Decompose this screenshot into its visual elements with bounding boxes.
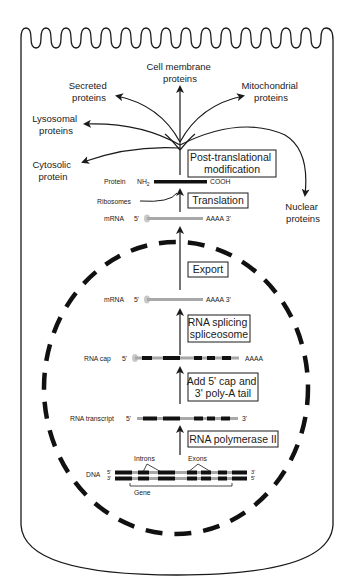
label-secreted-proteins: Secreted proteins bbox=[69, 80, 110, 103]
svg-text:RNA polymerase II: RNA polymerase II bbox=[189, 433, 277, 445]
label-nuclear-proteins: Nuclear proteins bbox=[285, 201, 320, 224]
label-mitochondrial-proteins: Mitochondrial proteins bbox=[241, 80, 300, 103]
svg-text:Exons: Exons bbox=[188, 455, 207, 462]
svg-text:3': 3' bbox=[107, 475, 111, 481]
mrna-nuclear: mRNA 5' AAAA 3' bbox=[104, 296, 231, 304]
svg-text:COOH: COOH bbox=[210, 178, 230, 185]
gene-expression-diagram: Cell membrane proteins Secreted proteins… bbox=[0, 0, 349, 587]
step-rna-splicing: RNA splicing spliceosome bbox=[180, 310, 250, 355]
label-cytosolic-protein: Cytosolic protein bbox=[32, 159, 73, 182]
svg-text:5': 5' bbox=[251, 475, 255, 481]
rna-capped: RNA cap 5' AAAA bbox=[84, 354, 264, 363]
svg-text:AAAA: AAAA bbox=[245, 355, 264, 362]
svg-text:5': 5' bbox=[122, 355, 127, 362]
step-translation: Ribosomes Translation bbox=[97, 190, 248, 212]
step-post-translational-modification: Post-translational modification bbox=[188, 150, 276, 177]
svg-text:Export: Export bbox=[193, 263, 223, 275]
svg-text:Introns: Introns bbox=[134, 455, 155, 462]
svg-text:RNA cap: RNA cap bbox=[84, 355, 111, 363]
svg-text:Protein: Protein bbox=[104, 178, 126, 185]
svg-text:mRNA: mRNA bbox=[104, 296, 124, 303]
nucleus-envelope bbox=[44, 242, 308, 534]
svg-text:AAAA 3': AAAA 3' bbox=[206, 215, 231, 222]
svg-text:3': 3' bbox=[242, 415, 247, 422]
dna-double-strand: Introns Exons DNA 5' 3' 3' 5' Gene bbox=[86, 455, 255, 496]
step-export: Export bbox=[180, 228, 228, 290]
svg-text:RNA splicing spliceosome: RNA splicing spliceosome bbox=[188, 316, 250, 340]
svg-text:DNA: DNA bbox=[86, 471, 101, 478]
svg-text:Gene: Gene bbox=[134, 489, 151, 496]
mrna-cytoplasmic: mRNA 5' AAAA 3' bbox=[104, 215, 231, 223]
svg-text:5': 5' bbox=[134, 296, 139, 303]
svg-text:Add 5' cap and 3' poly-A: Add 5' cap and 3' poly-A tail bbox=[187, 375, 260, 399]
svg-text:Translation: Translation bbox=[192, 194, 244, 206]
svg-text:NH2: NH2 bbox=[137, 178, 150, 187]
step-add-cap-and-tail: Add 5' cap and 3' poly-A tail bbox=[180, 368, 259, 404]
label-lysosomal-proteins: Lysosomal proteins bbox=[32, 113, 80, 136]
step-rna-polymerase-ii: RNA polymerase II bbox=[180, 427, 278, 455]
svg-text:Ribosomes: Ribosomes bbox=[97, 198, 132, 205]
svg-text:5': 5' bbox=[134, 215, 139, 222]
label-cell-membrane-proteins: Cell membrane proteins bbox=[146, 61, 213, 84]
protein-chain: Protein NH2 COOH bbox=[104, 178, 230, 187]
svg-text:5': 5' bbox=[126, 415, 131, 422]
rna-transcript: RNA transcript 5' 3' bbox=[70, 415, 247, 423]
svg-text:RNA transcript: RNA transcript bbox=[70, 415, 114, 423]
svg-text:AAAA 3': AAAA 3' bbox=[206, 296, 231, 303]
svg-text:mRNA: mRNA bbox=[104, 215, 124, 222]
